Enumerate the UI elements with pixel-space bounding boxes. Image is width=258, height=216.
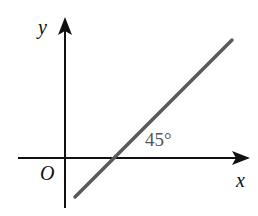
x-axis-label: x [235,169,245,191]
y-axis [58,17,72,208]
y-axis-label: y [36,16,47,39]
sloped-line [75,40,232,197]
origin-label: O [40,162,54,184]
angle-label: 45° [145,129,172,150]
coordinate-diagram: y O x 45° [0,0,258,216]
